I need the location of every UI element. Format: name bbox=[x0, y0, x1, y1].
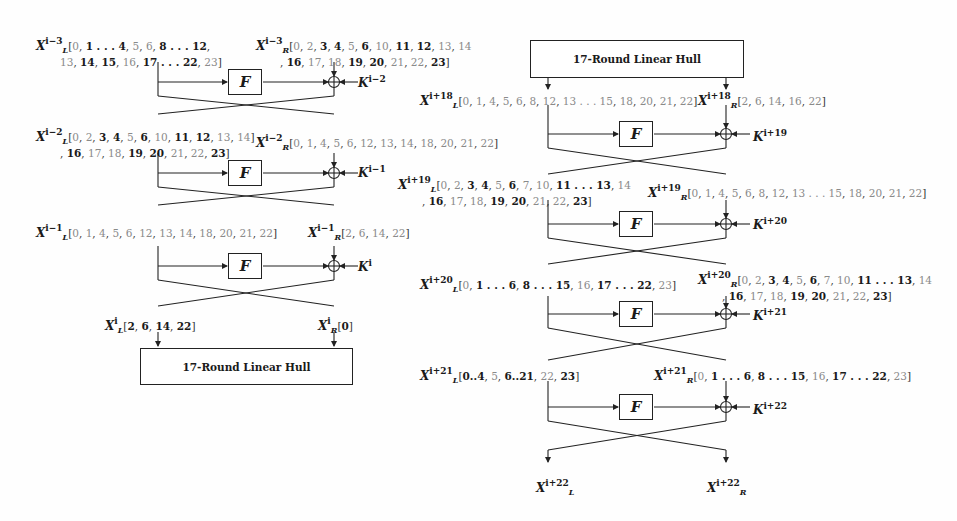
variable-name: Xi−3R bbox=[256, 39, 289, 53]
bit-index: 18 bbox=[199, 227, 212, 239]
bit-index: , bbox=[164, 147, 171, 159]
right-key-round-1: Ki+19 bbox=[753, 128, 787, 144]
left-key-round-3: Ki bbox=[358, 258, 372, 274]
bit-index: , bbox=[516, 279, 523, 291]
bit-index: 10 bbox=[536, 179, 549, 191]
bit-index: 2 bbox=[345, 227, 352, 239]
bit-index: 22 bbox=[177, 320, 192, 332]
bit-index: , bbox=[556, 95, 563, 107]
bit-index: 14 bbox=[400, 137, 413, 149]
right-key-round-4: Ki+22 bbox=[753, 401, 787, 417]
bit-index: 21 bbox=[660, 95, 673, 107]
bit-index: , bbox=[846, 290, 853, 302]
left-output-xr: XiR[0] bbox=[318, 316, 353, 336]
bit-index: , bbox=[454, 137, 461, 149]
bit-index: 10 bbox=[837, 274, 850, 286]
bit-index: 21 bbox=[391, 56, 404, 68]
bit-index: ] bbox=[446, 56, 450, 68]
bit-index: 10 bbox=[375, 40, 388, 52]
bit-index: 20 bbox=[811, 290, 826, 302]
bit-index: 23 bbox=[561, 370, 576, 382]
bit-index: , bbox=[410, 40, 417, 52]
f-function-box: F bbox=[228, 160, 262, 186]
bit-index: , bbox=[862, 187, 869, 199]
bit-index: ] bbox=[922, 187, 926, 199]
bit-index: , bbox=[704, 370, 711, 382]
bit-index: , bbox=[189, 131, 196, 143]
bit-index: 6 bbox=[140, 131, 147, 143]
bit-index: , bbox=[842, 187, 849, 199]
left-xl-round-1: Xi−3L[0, 1 . . . 4, 5, 6, 8 . . . 12,13,… bbox=[36, 36, 222, 68]
bit-index: ] bbox=[273, 227, 277, 239]
variable-name: Xi+20R bbox=[698, 273, 737, 287]
bit-index: ] bbox=[226, 147, 230, 159]
bit-index: 6 bbox=[755, 95, 762, 107]
bit-index: 16 bbox=[287, 56, 302, 68]
bit-index: 0 bbox=[293, 137, 300, 149]
left-key-round-1: Ki−2 bbox=[358, 74, 386, 90]
bit-index: , bbox=[887, 370, 894, 382]
variable-name: Xi−1L bbox=[36, 226, 68, 240]
bit-index: 1 bbox=[705, 187, 712, 199]
bit-index: , bbox=[817, 274, 824, 286]
bit-index: 2 bbox=[127, 320, 134, 332]
bit-index: 6 bbox=[745, 187, 752, 199]
bit-index: , bbox=[389, 40, 396, 52]
bit-index: 12 bbox=[196, 131, 211, 143]
bit-index: 1 . . . 6 bbox=[476, 279, 516, 291]
bit-index: 14 bbox=[458, 40, 471, 52]
bit-index: , bbox=[566, 195, 573, 207]
variable-name: Xi−3L bbox=[36, 39, 68, 53]
bit-index: , bbox=[882, 187, 889, 199]
bit-index: ] bbox=[888, 290, 892, 302]
bit-index: 14 bbox=[179, 227, 192, 239]
bit-index: 12 bbox=[772, 187, 785, 199]
bit-index: 8 . . . 15 bbox=[758, 370, 806, 382]
bit-index: , bbox=[170, 320, 177, 332]
bit-index: , bbox=[570, 279, 577, 291]
bit-index: 19 bbox=[128, 147, 143, 159]
bit-index: 13 . . . 15 bbox=[563, 95, 613, 107]
bit-index: 0..4 bbox=[463, 370, 485, 382]
bit-index: , bbox=[184, 147, 191, 159]
bit-index: 21 bbox=[461, 137, 474, 149]
bit-index: , bbox=[743, 290, 750, 302]
bit-index: , bbox=[826, 290, 833, 302]
bit-index: , bbox=[79, 227, 86, 239]
bit-index: 17 bbox=[88, 147, 101, 159]
bit-index: 14 bbox=[372, 227, 385, 239]
bit-index: , bbox=[653, 95, 660, 107]
bit-index: 12 bbox=[139, 227, 152, 239]
bit-index: 20 bbox=[369, 56, 384, 68]
bit-index: 16 bbox=[577, 279, 590, 291]
right-xl-round-2: Xi+19L[0, 2, 3, 4, 5, 6, 7, 10, 11 . . .… bbox=[398, 175, 631, 207]
bit-index: , bbox=[748, 274, 755, 286]
bit-index: 2 bbox=[454, 179, 461, 191]
bit-index: 5 bbox=[796, 274, 803, 286]
bit-index: 21 bbox=[533, 195, 546, 207]
bit-index: 16 bbox=[67, 147, 82, 159]
bit-index: 18 bbox=[470, 195, 483, 207]
bit-index: 13 bbox=[159, 227, 172, 239]
bit-index: 14 bbox=[919, 274, 932, 286]
bit-index: 23 bbox=[659, 279, 672, 291]
bit-index: 13 bbox=[380, 137, 393, 149]
bit-index: 1 . . . 4 bbox=[86, 40, 126, 52]
bit-index: 4 bbox=[782, 274, 789, 286]
bit-index: 17 . . . 22 bbox=[597, 279, 652, 291]
bit-index: 1 bbox=[476, 95, 483, 107]
bit-index: , bbox=[119, 227, 126, 239]
bit-index: , bbox=[340, 137, 347, 149]
bit-index: , bbox=[136, 56, 143, 68]
bit-index: , bbox=[502, 179, 509, 191]
bit-index: 22 bbox=[909, 187, 922, 199]
f-function-box: F bbox=[619, 301, 653, 327]
bit-index: 13 bbox=[438, 40, 451, 52]
bit-index: , bbox=[404, 56, 411, 68]
bit-index: 22 bbox=[260, 227, 273, 239]
bit-index: 23 bbox=[204, 56, 217, 68]
left-xr-round-3: Xi−1R[2, 6, 14, 22] bbox=[308, 223, 410, 243]
bit-index: 13 . . . 15 bbox=[792, 187, 842, 199]
bit-index: 22 bbox=[540, 370, 553, 382]
right-xr-round-1: Xi+18R[2, 6, 14, 16, 22] bbox=[698, 91, 826, 111]
